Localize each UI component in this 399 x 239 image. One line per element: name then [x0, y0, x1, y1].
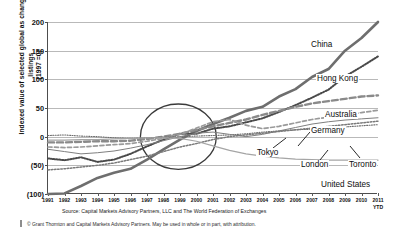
x-axis-tick-label: 2009 [339, 197, 350, 203]
x-axis-tick-label: 2002 [224, 197, 235, 203]
x-axis-tick-label: 1991 [42, 197, 53, 203]
x-axis-tick-label: 2008 [323, 197, 334, 203]
series-label-united-states: United States [320, 180, 371, 189]
series-label-germany: Germany [310, 126, 346, 135]
series-label-tokyo: Tokyo [256, 148, 279, 157]
x-axis-tick-label: 1998 [158, 197, 169, 203]
footer-rule [20, 220, 22, 227]
x-axis-tick-label: 1995 [108, 197, 119, 203]
x-axis-tick-label: 1993 [75, 197, 86, 203]
x-axis-tick-label: 2005 [273, 197, 284, 203]
series-label-toronto: Toronto [348, 160, 377, 169]
x-axis-tick-label: 2006 [290, 197, 301, 203]
series-label-australia: Australia [324, 110, 358, 119]
x-axis-tick-label: 2010 [356, 197, 367, 203]
series-label-hong-kong: Hong Kong [316, 74, 359, 83]
x-axis-tick-label: 2004 [257, 197, 268, 203]
x-axis-tick-sublabel: YTD [372, 204, 383, 210]
leader-line [273, 138, 286, 148]
x-axis-tick-label: 1994 [92, 197, 103, 203]
x-axis-tick-label: 2001 [207, 197, 218, 203]
x-axis-tick-label: 2011YTD [372, 197, 383, 210]
x-axis-tick-label: 2000 [191, 197, 202, 203]
x-axis-tick-label: 2003 [240, 197, 251, 203]
x-axis-tick-mark [378, 193, 379, 196]
x-axis-tick-label: 1999 [174, 197, 185, 203]
plot-area: 200150100500(50)(100) 199119921993199419… [47, 22, 377, 194]
x-axis-tick-label: 1996 [125, 197, 136, 203]
x-axis-tick-label: 1997 [141, 197, 152, 203]
leader-line [298, 132, 310, 146]
series-label-london: London [300, 160, 329, 169]
leader-line [350, 146, 360, 158]
chart-figure: Indexed value of selected global as chan… [0, 0, 399, 239]
leader-line [320, 150, 328, 160]
copyright-note: © Grant Thornton and Capital Markets Adv… [27, 222, 256, 227]
source-note: Source: Capital Markets Advisory Partner… [62, 208, 266, 214]
x-axis-tick-label: 2007 [306, 197, 317, 203]
series-label-china: China [310, 40, 333, 49]
x-axis-tick-label: 1992 [59, 197, 70, 203]
